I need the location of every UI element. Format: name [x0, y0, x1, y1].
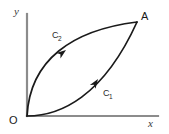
curve-c2-label-group: C 2 [52, 30, 62, 42]
point-a-label: A [141, 10, 149, 22]
curve-c1-subscript: 1 [109, 93, 113, 100]
figure-container: y x O A C 1 C 2 [0, 0, 169, 134]
y-axis-label: y [13, 5, 19, 17]
curve-c1-label-group: C 1 [103, 88, 113, 100]
curve-c2-subscript: 2 [58, 35, 62, 42]
x-axis-label: x [147, 117, 153, 129]
origin-label: O [9, 114, 18, 126]
curve-c2-path [27, 22, 137, 116]
curve-c1-arrowhead [90, 77, 101, 89]
vector-diagram: y x O A C 1 C 2 [0, 0, 169, 134]
